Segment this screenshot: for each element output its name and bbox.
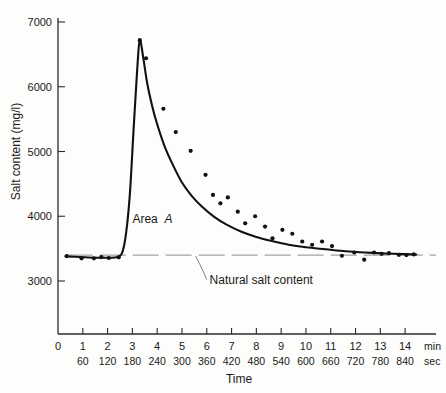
data-point bbox=[397, 253, 401, 257]
y-tick-label: 4000 bbox=[28, 210, 52, 222]
data-point bbox=[379, 252, 383, 256]
data-point bbox=[189, 149, 193, 153]
x-tick-label-min: 3 bbox=[129, 340, 135, 352]
data-point bbox=[300, 239, 304, 243]
x-tick-label-min: 5 bbox=[179, 340, 185, 352]
x-tick-label-min: 1 bbox=[80, 340, 86, 352]
area-a-label: Area bbox=[132, 212, 158, 226]
natural-salt-content-label: Natural salt content bbox=[210, 273, 314, 287]
data-point bbox=[138, 38, 142, 42]
x-tick-label-sec: 480 bbox=[248, 355, 266, 367]
data-point bbox=[211, 193, 215, 197]
data-point bbox=[387, 251, 391, 255]
x-tick-label-min: 13 bbox=[374, 340, 386, 352]
y-tick-label: 3000 bbox=[28, 275, 52, 287]
data-point bbox=[372, 250, 376, 254]
x-tick-label-sec: 420 bbox=[223, 355, 241, 367]
x-tick-label-min: 10 bbox=[300, 340, 312, 352]
data-point bbox=[79, 256, 83, 260]
data-point bbox=[404, 253, 408, 257]
data-point bbox=[280, 228, 284, 232]
x-tick-label-min: 0 bbox=[55, 340, 61, 352]
x-unit-min-label: min bbox=[424, 340, 441, 352]
data-point bbox=[352, 250, 356, 254]
data-point bbox=[218, 201, 222, 205]
y-tick-label: 6000 bbox=[28, 81, 52, 93]
data-point bbox=[174, 130, 178, 134]
data-point bbox=[362, 258, 366, 262]
data-point bbox=[330, 244, 334, 248]
x-tick-label-sec: 540 bbox=[272, 355, 290, 367]
chart-svg: 30004000500060007000Salt content (mg/l)0… bbox=[0, 0, 446, 393]
x-tick-label-sec: 720 bbox=[347, 355, 365, 367]
x-tick-label-sec: 180 bbox=[124, 355, 142, 367]
x-tick-label-sec: 360 bbox=[198, 355, 216, 367]
data-point bbox=[412, 252, 416, 256]
data-point bbox=[226, 195, 230, 199]
natural-salt-leader-line bbox=[196, 256, 207, 279]
x-tick-label-sec: 840 bbox=[396, 355, 414, 367]
data-point bbox=[320, 239, 324, 243]
data-point bbox=[144, 56, 148, 60]
data-point bbox=[203, 173, 207, 177]
salt-content-curve bbox=[65, 40, 416, 258]
y-tick-label: 5000 bbox=[28, 146, 52, 158]
x-tick-label-sec: 300 bbox=[173, 355, 191, 367]
x-tick-label-min: 7 bbox=[228, 340, 234, 352]
x-tick-label-sec: 60 bbox=[77, 355, 89, 367]
data-point bbox=[65, 254, 69, 258]
x-tick-label-min: 14 bbox=[399, 340, 411, 352]
x-tick-label-min: 6 bbox=[204, 340, 210, 352]
x-tick-label-min: 11 bbox=[325, 340, 336, 352]
data-point bbox=[161, 107, 165, 111]
data-point bbox=[310, 243, 314, 247]
data-point bbox=[263, 225, 267, 229]
area-a-label-symbol: A bbox=[163, 212, 172, 226]
x-tick-label-min: 9 bbox=[278, 340, 284, 352]
data-point bbox=[253, 214, 257, 218]
x-tick-label-min: 12 bbox=[349, 340, 361, 352]
x-tick-label-min: 2 bbox=[105, 340, 111, 352]
data-point bbox=[340, 254, 344, 258]
data-point bbox=[270, 236, 274, 240]
x-tick-label-sec: 120 bbox=[99, 355, 117, 367]
x-tick-label-sec: 780 bbox=[372, 355, 390, 367]
x-tick-label-sec: 600 bbox=[297, 355, 315, 367]
data-point bbox=[99, 255, 103, 259]
x-tick-label-sec: 240 bbox=[148, 355, 166, 367]
data-point bbox=[236, 210, 240, 214]
data-point bbox=[117, 255, 121, 259]
data-point bbox=[92, 256, 96, 260]
data-point bbox=[107, 256, 111, 260]
x-tick-label-sec: 660 bbox=[322, 355, 340, 367]
x-tick-label-min: 4 bbox=[154, 340, 160, 352]
x-tick-label-min: 8 bbox=[253, 340, 259, 352]
salt-dilution-chart: 30004000500060007000Salt content (mg/l)0… bbox=[0, 0, 446, 393]
y-tick-label: 7000 bbox=[28, 16, 52, 28]
data-point bbox=[243, 221, 247, 225]
x-unit-sec-label: sec bbox=[424, 355, 440, 367]
x-axis-title: Time bbox=[226, 372, 253, 386]
data-point bbox=[290, 232, 294, 236]
y-axis-title: Salt content (mg/l) bbox=[9, 103, 23, 200]
